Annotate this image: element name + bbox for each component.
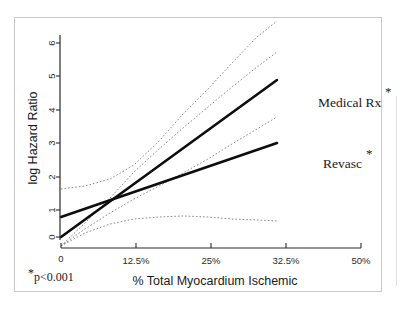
y-tick-label-5: 5 [46,73,57,78]
y-tick-label-3: 3 [46,140,57,145]
y-tick-label-2: 2 [46,174,57,179]
x-tick-label-32-5: 32.5% [273,255,300,266]
figure-container: 6 5 4 3 2 1 0 log Hazard Ratio 0 12.5% 2… [0,0,417,321]
x-tick-label-50: 50% [351,255,371,266]
y-tick-label-0: 0 [46,234,57,239]
y-tick-label-6: 6 [46,40,57,45]
series-line-revasc [61,143,277,217]
y-tick-label-4: 4 [46,107,57,112]
y-tick-label-1: 1 [46,207,57,212]
series-asterisk-revasc: * [366,146,373,161]
series-label-revasc: Revasc [323,156,362,171]
x-tick-label-0: 0 [58,253,63,264]
x-axis-title: % Total Myocardium Ischemic [132,274,297,288]
ci-upper-medical [61,52,277,246]
ci-lower-revasc [61,216,277,246]
y-axis-title: log Hazard Ratio [26,91,40,184]
x-tick-label-25: 25% [201,255,221,266]
series-line-medical [61,80,277,237]
ci-band-medical [61,52,277,246]
x-tick-label-12-5: 12.5% [123,255,150,266]
series-label-medical: Medical Rx [318,95,382,110]
ci-lower-medical [61,117,277,246]
pvalue-note: p<0.001 [34,270,74,284]
chart-plot-area: 6 5 4 3 2 1 0 log Hazard Ratio 0 12.5% 2… [0,0,417,321]
series-asterisk-medical: * [385,84,392,99]
